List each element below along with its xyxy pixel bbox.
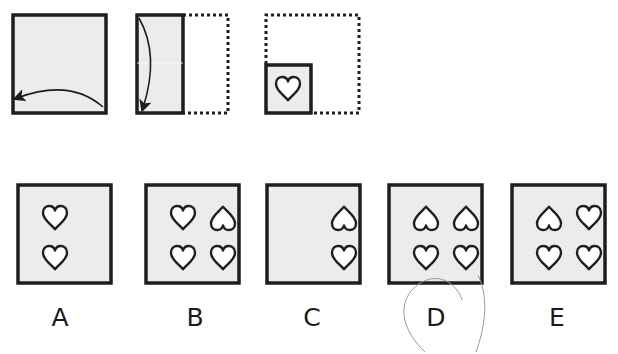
option-label-e[interactable]: E: [537, 303, 577, 332]
option-label-c[interactable]: C: [292, 303, 332, 332]
answer-options: [18, 185, 605, 283]
option-label-d[interactable]: D: [416, 303, 456, 332]
option-e[interactable]: [512, 185, 605, 283]
option-a[interactable]: [18, 185, 111, 283]
option-label-a[interactable]: A: [40, 303, 80, 332]
option-b[interactable]: [146, 185, 239, 283]
option-box: [18, 185, 111, 283]
option-d[interactable]: [389, 185, 482, 283]
puzzle-canvas: [0, 0, 618, 354]
option-c[interactable]: [267, 185, 360, 283]
option-label-b[interactable]: B: [175, 303, 215, 332]
dotted-outline: [183, 15, 228, 113]
fold-step-1: [13, 15, 106, 113]
fold-step-3: [266, 15, 359, 113]
fold-step-2: [137, 15, 228, 113]
